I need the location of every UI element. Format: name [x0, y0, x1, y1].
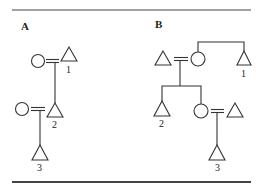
individual-number-b2: 2 [159, 118, 164, 129]
individual-number-b1: 1 [241, 68, 246, 79]
female-circle-icon [32, 55, 45, 68]
male-triangle-icon [47, 103, 63, 117]
female-circle-icon [194, 104, 208, 118]
panel-b-label: B [155, 18, 163, 30]
marriage-equals-icon [211, 110, 224, 113]
female-circle-icon [191, 52, 205, 66]
male-triangle-icon [237, 51, 251, 65]
marriage-equals-icon [31, 108, 45, 111]
male-triangle-icon [209, 145, 225, 160]
panel-a-label: A [21, 20, 29, 32]
individual-number-a2: 2 [52, 119, 57, 130]
male-triangle-icon [32, 145, 48, 160]
male-triangle-icon [154, 101, 170, 116]
male-triangle-icon [61, 47, 77, 61]
sibling-line [162, 86, 201, 104]
kinship-diagram-figure: A 1 2 3 B [0, 0, 265, 184]
female-circle-icon [16, 103, 29, 116]
male-triangle-icon [227, 103, 243, 117]
individual-number-b3: 3 [215, 162, 220, 173]
marriage-equals-icon [174, 58, 188, 61]
individual-number-a3: 3 [37, 162, 42, 173]
panel-a: A 1 2 3 [16, 20, 78, 173]
sibling-line [198, 42, 244, 52]
panel-b: B 1 2 3 [154, 18, 251, 173]
male-triangle-icon [155, 51, 171, 65]
marriage-equals-icon [46, 60, 59, 63]
individual-number-a1: 1 [66, 64, 71, 75]
